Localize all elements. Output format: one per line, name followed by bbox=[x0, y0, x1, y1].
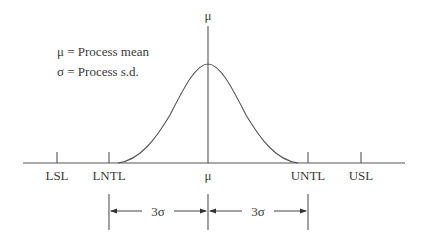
arrowhead-left-span-end bbox=[200, 209, 207, 214]
left-span-label: 3σ bbox=[151, 204, 165, 219]
arrowhead-right-span-end bbox=[300, 209, 307, 214]
label-lsl: LSL bbox=[45, 168, 68, 183]
arrowhead-left-span-start bbox=[110, 209, 117, 214]
label-lntl: LNTL bbox=[92, 168, 125, 183]
label-untl: UNTL bbox=[291, 168, 326, 183]
legend-sigma-definition: σ = Process s.d. bbox=[57, 64, 139, 79]
label-mu: μ bbox=[205, 168, 212, 183]
mean-top-label: μ bbox=[205, 8, 212, 23]
legend-mu-definition: μ = Process mean bbox=[57, 44, 149, 59]
label-usl: USL bbox=[349, 168, 374, 183]
right-span-label: 3σ bbox=[251, 204, 265, 219]
arrowhead-right-span-start bbox=[209, 209, 216, 214]
natural-tolerance-diagram: μ = Process mean σ = Process s.d. μ LSL … bbox=[0, 0, 426, 243]
